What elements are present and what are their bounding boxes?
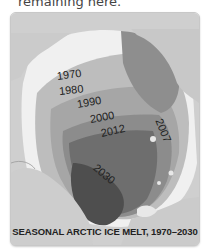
- arctic-ice-map-figure: 1970 1980 1990 2000 2012 2007 2030 SEASO…: [10, 12, 200, 246]
- caption-top: remaining here.: [18, 0, 121, 9]
- year-label-1980: 1980: [58, 82, 84, 96]
- map-title: SEASONAL ARCTIC ICE MELT, 1970–2030: [11, 226, 199, 237]
